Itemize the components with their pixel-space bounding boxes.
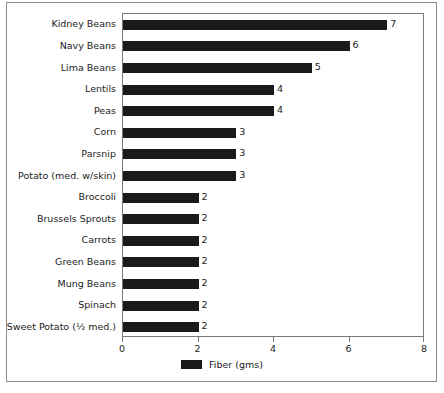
x-axis-tick-mark [349, 337, 350, 342]
bar [123, 279, 199, 289]
bar-value-label: 7 [390, 19, 396, 29]
bar-value-label: 2 [202, 192, 208, 202]
bar-value-label: 4 [277, 105, 283, 115]
bar [123, 322, 199, 332]
bar-value-label: 5 [315, 62, 321, 72]
bar [123, 128, 236, 138]
bar [123, 149, 236, 159]
x-axis-tick-mark [122, 337, 123, 342]
category-label: Spinach [0, 299, 116, 310]
bar-value-label: 3 [239, 170, 245, 180]
bar [123, 63, 312, 73]
bar-value-label: 3 [239, 148, 245, 158]
bar [123, 106, 274, 116]
bars-container [123, 14, 423, 336]
bar-value-label: 2 [202, 235, 208, 245]
bar-value-label: 2 [202, 278, 208, 288]
x-axis-tick-label: 6 [337, 343, 361, 354]
category-label: Corn [0, 126, 116, 137]
bar-value-label: 6 [353, 40, 359, 50]
bar [123, 236, 199, 246]
bar-value-label: 4 [277, 84, 283, 94]
x-axis-tick-mark [423, 337, 424, 342]
legend-label-fiber: Fiber (gms) [209, 359, 263, 370]
category-label: Potato (med. w/skin) [0, 170, 116, 181]
category-axis-labels: Kidney BeansNavy BeansLima BeansLentilsP… [0, 13, 116, 337]
category-label: Broccoli [0, 191, 116, 202]
bar [123, 85, 274, 95]
category-label: Peas [0, 105, 116, 116]
category-label: Navy Beans [0, 40, 116, 51]
bar-value-label: 2 [202, 213, 208, 223]
chart-screenshot: Kidney BeansNavy BeansLima BeansLentilsP… [0, 0, 444, 393]
legend-swatch-fiber [181, 360, 202, 369]
bar-value-label: 2 [202, 300, 208, 310]
x-axis-tick-label: 8 [412, 343, 436, 354]
bar-value-label: 2 [202, 256, 208, 266]
category-label: Brussels Sprouts [0, 213, 116, 224]
bar [123, 301, 199, 311]
plot-area [122, 13, 424, 337]
bar [123, 193, 199, 203]
category-label: Mung Beans [0, 278, 116, 289]
x-axis-tick-label: 2 [186, 343, 210, 354]
category-label: Lima Beans [0, 62, 116, 73]
category-label: Kidney Beans [0, 18, 116, 29]
bar [123, 41, 350, 51]
category-label: Lentils [0, 83, 116, 94]
x-axis-tick-label: 4 [261, 343, 285, 354]
x-axis-tick-label: 0 [110, 343, 134, 354]
x-axis-tick-mark [198, 337, 199, 342]
bar [123, 257, 199, 267]
bar [123, 214, 199, 224]
category-label: Parsnip [0, 148, 116, 159]
bar-value-label: 2 [202, 321, 208, 331]
category-label: Green Beans [0, 256, 116, 267]
bar-value-label: 3 [239, 127, 245, 137]
x-axis-tick-mark [273, 337, 274, 342]
bar [123, 171, 236, 181]
category-label: Carrots [0, 234, 116, 245]
bar [123, 20, 387, 30]
chart-legend: Fiber (gms) [0, 359, 444, 370]
category-label: Sweet Potato (½ med.) [0, 321, 116, 332]
